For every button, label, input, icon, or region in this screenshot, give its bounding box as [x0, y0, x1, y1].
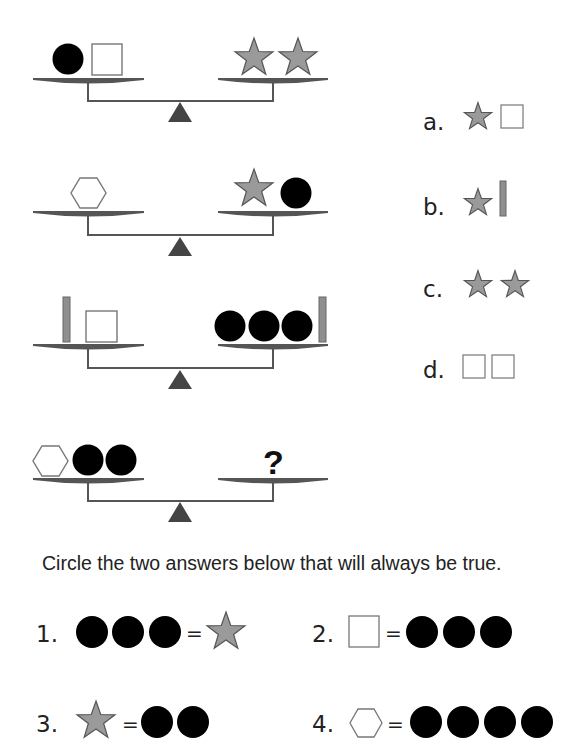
- bar-shape: [63, 297, 70, 342]
- circle-shape: [521, 706, 553, 738]
- balance-scale-3: [33, 297, 328, 389]
- circle-shape: [106, 445, 137, 476]
- circle-shape: [443, 616, 475, 648]
- right-pan: [218, 78, 328, 84]
- option-b[interactable]: b.: [423, 181, 506, 220]
- square-shape: [86, 311, 117, 342]
- star-shape: [235, 38, 273, 74]
- equals-sign: =: [385, 621, 402, 645]
- beam: [88, 349, 273, 368]
- star-shape: [464, 271, 491, 297]
- balance-scale-2: [33, 169, 328, 256]
- star-shape: [235, 169, 273, 205]
- circle-shape: [149, 616, 181, 648]
- star-shape: [464, 103, 491, 129]
- answer-3-label: 3.: [36, 711, 58, 737]
- option-d-label: d.: [423, 357, 445, 383]
- square-shape: [349, 616, 379, 647]
- answer-1-label: 1.: [36, 621, 58, 647]
- fulcrum-triangle: [168, 502, 192, 522]
- star-shape: [279, 38, 317, 74]
- option-d[interactable]: d.: [423, 355, 514, 383]
- circle-shape: [112, 616, 144, 648]
- fulcrum-triangle: [168, 237, 192, 256]
- circle-shape: [447, 706, 479, 738]
- option-a-label: a.: [423, 109, 444, 135]
- circle-shape: [141, 706, 173, 738]
- puzzle-canvas: ? a. b. c. d. Circle the two answers bel…: [0, 0, 567, 745]
- answer-3[interactable]: 3. =: [36, 701, 209, 738]
- star-shape: [464, 189, 491, 215]
- square-shape: [463, 355, 485, 378]
- answer-4-label: 4.: [312, 711, 334, 737]
- equals-sign: =: [122, 712, 139, 736]
- circle-shape: [177, 706, 209, 738]
- circle-shape: [281, 178, 312, 209]
- right-pan: [218, 344, 328, 350]
- star-shape: [207, 612, 245, 648]
- scale-1-left-pan-items: [53, 44, 123, 76]
- circle-shape: [282, 311, 313, 342]
- circle-shape: [249, 311, 280, 342]
- hexagon-shape: [71, 178, 106, 208]
- answer-2-label: 2.: [312, 621, 334, 647]
- circle-shape: [53, 44, 84, 75]
- answer-1[interactable]: 1. =: [36, 612, 245, 648]
- square-shape: [492, 355, 514, 378]
- option-b-label: b.: [423, 194, 445, 220]
- bar-shape: [319, 297, 326, 342]
- equals-sign: =: [186, 621, 203, 645]
- fulcrum-triangle: [168, 370, 192, 389]
- circle-shape: [406, 616, 438, 648]
- option-a[interactable]: a.: [423, 103, 523, 135]
- right-pan: [218, 478, 328, 484]
- scale-1-right-pan-items: [235, 38, 317, 74]
- beam: [88, 83, 273, 101]
- instruction-text: Circle the two answers below that will a…: [42, 552, 502, 574]
- circle-shape: [215, 311, 246, 342]
- answer-2[interactable]: 2. =: [312, 616, 512, 648]
- circle-shape: [480, 616, 512, 648]
- square-shape: [501, 105, 523, 128]
- unknown-question-mark: ?: [263, 443, 284, 481]
- balance-scale-4: ?: [33, 443, 328, 522]
- square-shape: [92, 44, 122, 75]
- hexagon-shape: [33, 446, 68, 476]
- balance-scale-1: [33, 38, 328, 122]
- right-pan: [218, 211, 328, 217]
- equals-sign: =: [387, 712, 404, 736]
- fulcrum-triangle: [168, 102, 192, 122]
- beam: [88, 483, 273, 501]
- beam: [88, 216, 273, 235]
- left-pan: [33, 78, 144, 84]
- star-shape: [77, 701, 115, 737]
- left-pan: [33, 211, 144, 217]
- option-c-label: c.: [423, 276, 443, 302]
- answer-4[interactable]: 4. =: [312, 706, 553, 738]
- hexagon-shape: [350, 709, 382, 737]
- circle-shape: [76, 616, 108, 648]
- circle-shape: [484, 706, 516, 738]
- left-pan: [33, 478, 144, 484]
- circle-shape: [73, 445, 104, 476]
- left-pan: [33, 344, 144, 350]
- circle-shape: [410, 706, 442, 738]
- option-c[interactable]: c.: [423, 271, 529, 302]
- star-shape: [501, 271, 528, 297]
- bar-shape: [500, 181, 506, 216]
